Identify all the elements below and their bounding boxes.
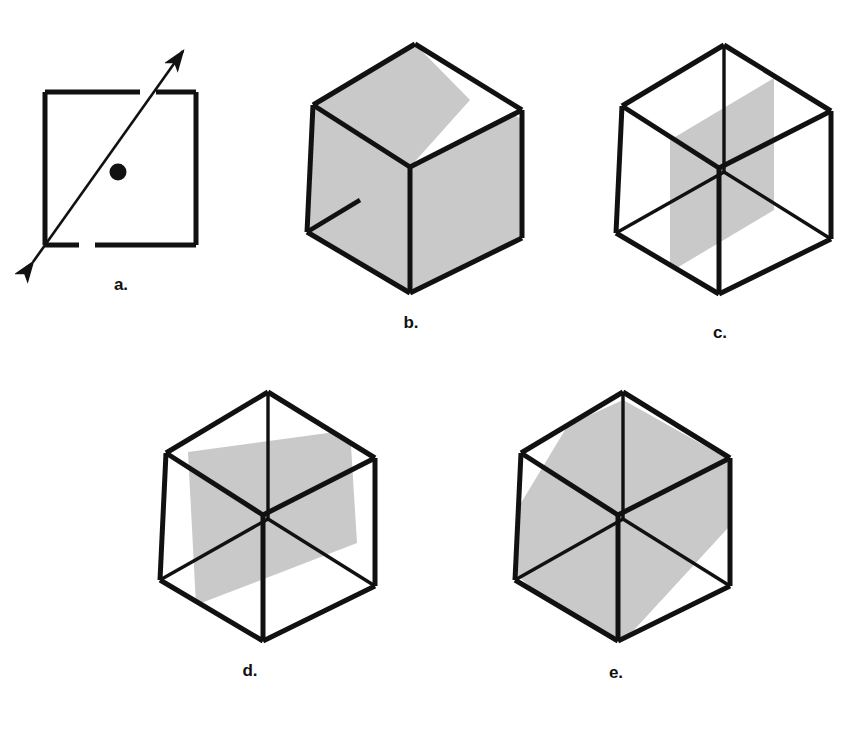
- panel-a-caption: a.: [114, 275, 128, 294]
- panel-d-caption: d.: [242, 661, 257, 680]
- panel-b-caption: b.: [403, 313, 418, 332]
- panel-e-caption: e.: [609, 663, 623, 682]
- cube-cross-sections-figure: a.: [0, 0, 868, 729]
- figure-root: a.: [0, 0, 868, 729]
- panel-c-caption: c.: [713, 323, 727, 342]
- panel-a-center-dot: [110, 164, 127, 181]
